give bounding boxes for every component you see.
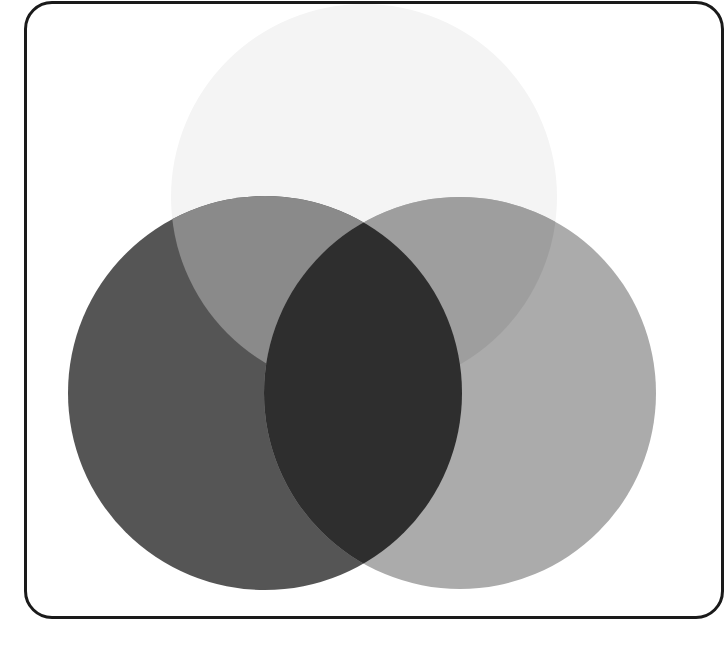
venn-diagram bbox=[0, 0, 687, 650]
